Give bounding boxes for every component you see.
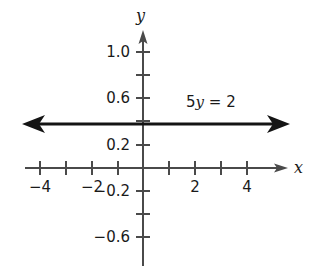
y-tick-label-neg0.6: −0.6 bbox=[82, 230, 130, 245]
data-line-5y-equals-2 bbox=[22, 115, 290, 133]
x-tick-label-neg4: −4 bbox=[20, 180, 60, 195]
equation-variable-y: y bbox=[196, 93, 204, 111]
graph-figure: 1.0 0.6 0.2 −0.2 −0.6 −4 −2 2 4 y x 5y =… bbox=[0, 0, 313, 269]
y-tick-label-0.6: 0.6 bbox=[92, 91, 130, 106]
y-axis-label: y bbox=[136, 8, 145, 24]
equation-coefficient: 5 bbox=[186, 93, 196, 111]
x-axis-label: x bbox=[294, 160, 303, 176]
x-tick-label-2: 2 bbox=[175, 180, 215, 195]
y-tick-label-0.2: 0.2 bbox=[92, 138, 130, 153]
x-tick-label-neg2: −2 bbox=[72, 180, 112, 195]
coordinate-plane bbox=[0, 0, 313, 269]
equation-annotation: 5y = 2 bbox=[186, 95, 236, 110]
x-tick-label-4: 4 bbox=[227, 180, 267, 195]
y-tick-label-1.0: 1.0 bbox=[92, 45, 130, 60]
equation-suffix: = 2 bbox=[204, 93, 236, 111]
